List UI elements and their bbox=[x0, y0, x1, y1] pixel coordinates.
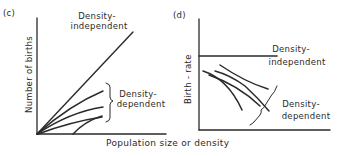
d-dependent-label-line2: dependent bbox=[278, 111, 334, 121]
c-dependent-label-line2: dependent bbox=[114, 99, 168, 109]
d-panel-tag: (d) bbox=[173, 10, 186, 20]
c-panel-tag: (c) bbox=[3, 8, 15, 18]
c-brace bbox=[106, 83, 113, 122]
diagram-canvas bbox=[0, 0, 338, 156]
d-dependent-label-line1: Density- bbox=[278, 99, 324, 109]
shared-x-axis-label: Population size or density bbox=[106, 138, 229, 148]
c-dependent-label-line1: Density- bbox=[115, 89, 161, 99]
c-independent-label-line1: Density- bbox=[68, 11, 126, 21]
d-independent-label-line1: Density- bbox=[262, 44, 320, 54]
c-independent-line bbox=[37, 32, 133, 134]
c-independent-label-line2: independent bbox=[64, 21, 134, 31]
c-dependent-curve-4 bbox=[73, 116, 102, 134]
d-y-axis-label: Birth - rate bbox=[183, 54, 193, 104]
d-independent-label-line2: independent bbox=[262, 57, 332, 67]
c-y-axis-label: Number of births bbox=[24, 36, 34, 113]
c-dependent-curve-2 bbox=[37, 107, 103, 134]
d-dependent-curve-3 bbox=[203, 71, 242, 110]
